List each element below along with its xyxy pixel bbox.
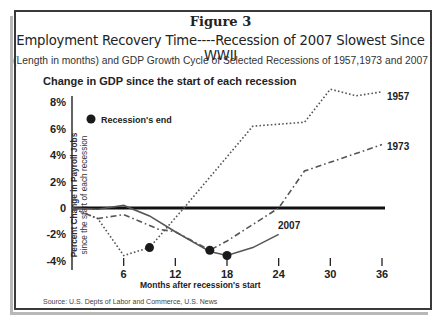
recession-end-marker-1957 xyxy=(145,243,154,252)
legend-marker-icon xyxy=(87,115,96,124)
y-tick-label: 6% xyxy=(50,123,66,135)
plot-area: 8%6%4%2%0-2%-4%61218243036195719732007Re… xyxy=(0,0,441,325)
series-label-2007: 2007 xyxy=(278,220,301,231)
y-tick-label: -2% xyxy=(46,228,66,240)
series-label-1957: 1957 xyxy=(387,91,410,102)
y-tick-label: 8% xyxy=(50,96,66,108)
x-tick-label: 6 xyxy=(121,268,127,280)
series-line-2007 xyxy=(72,205,279,255)
recession-end-marker-1973 xyxy=(205,246,214,255)
y-tick-label: 4% xyxy=(50,149,66,161)
x-tick-label: 30 xyxy=(324,268,336,280)
x-axis-label: Months after recession's start xyxy=(140,280,261,290)
series-label-1973: 1973 xyxy=(387,141,410,152)
legend-label: Recession's end xyxy=(101,115,172,125)
y-tick-label: 2% xyxy=(50,176,66,188)
x-tick-label: 36 xyxy=(376,268,388,280)
recession-end-marker-2007 xyxy=(223,251,232,260)
x-tick-label: 12 xyxy=(169,268,181,280)
series-line-1973 xyxy=(72,145,382,251)
x-tick-label: 24 xyxy=(273,268,286,280)
y-tick-label: 0 xyxy=(60,202,66,214)
x-tick-label: 18 xyxy=(221,268,233,280)
y-tick-label: -4% xyxy=(46,255,66,267)
source-note: Source: U.S. Depts of Labor and Commerce… xyxy=(43,298,217,305)
